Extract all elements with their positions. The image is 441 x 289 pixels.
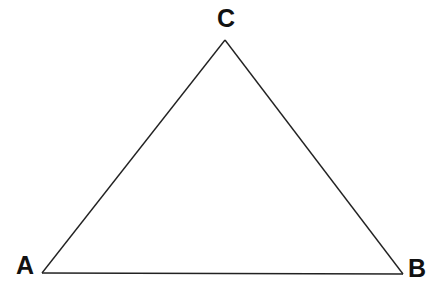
side-ab: [42, 273, 403, 274]
side-cb: [225, 40, 403, 274]
side-ac: [42, 40, 225, 273]
vertex-label-a: A: [16, 251, 34, 279]
triangle-diagram: A C B: [0, 0, 441, 289]
vertex-label-b: B: [408, 254, 426, 282]
vertex-label-c: C: [217, 4, 235, 32]
